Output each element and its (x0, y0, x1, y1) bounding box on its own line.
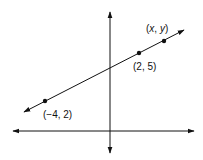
label-point-x-y: (x, y) (146, 23, 168, 34)
label-point-2-5: (2, 5) (133, 61, 156, 72)
graphed-line (24, 30, 184, 112)
label-x-var: x (148, 23, 155, 34)
point-x-y (162, 39, 166, 43)
label-y-var: y (159, 23, 166, 34)
point-2-5 (137, 51, 141, 55)
point-neg4-2 (43, 99, 47, 103)
coordinate-plane: (−4, 2) (2, 5) (x, y) (0, 0, 203, 160)
label-point-neg4-2: (−4, 2) (43, 109, 72, 120)
